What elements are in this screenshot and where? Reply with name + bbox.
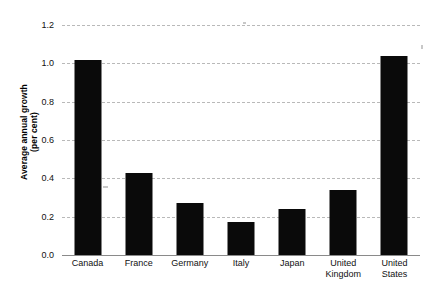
y-axis-tick-labels: 0.00.20.40.60.81.01.2 [0,0,62,300]
bar-japan[interactable] [279,209,306,255]
x-tick-label-line: United [366,258,422,269]
bar-chart-figure: Average annual growth (per cent) 0.00.20… [0,0,434,300]
x-tick-label-line: Canada [60,258,116,269]
x-tick-label-line: Italy [213,258,269,269]
x-axis-tick-labels: CanadaFranceGermanyItalyJapanUnitedKingd… [62,258,420,298]
bar-canada[interactable] [74,60,101,256]
x-tick-label-japan: Japan [264,258,320,269]
x-tick-label-line: Germany [162,258,218,269]
bar-italy[interactable] [227,222,254,255]
bar-slot-germany [164,25,215,255]
bars-layer [62,25,420,255]
x-tick-label-line: Kingdom [315,269,371,280]
scan-speckle [243,22,246,24]
bar-germany[interactable] [176,203,203,255]
x-tick-label-line: Japan [264,258,320,269]
axis-baseline [62,255,420,256]
x-tick-label-italy: Italy [213,258,269,269]
plot-area [62,25,420,255]
y-tick-label-0.8: 0.8 [41,97,54,107]
scan-speckle [421,45,423,49]
y-tick-label-0.6: 0.6 [41,135,54,145]
x-tick-label-france: France [111,258,167,269]
x-tick-label-line: France [111,258,167,269]
bar-slot-france [113,25,164,255]
y-tick-label-1.0: 1.0 [41,58,54,68]
bar-slot-united-states [369,25,420,255]
x-tick-label-line: States [366,269,422,280]
x-tick-label-line: United [315,258,371,269]
bar-united-states[interactable] [381,56,408,255]
bar-france[interactable] [125,173,152,255]
x-tick-label-united-states: UnitedStates [366,258,422,280]
y-tick-label-1.2: 1.2 [41,20,54,30]
scan-speckle [24,133,28,134]
x-tick-label-united-kingdom: UnitedKingdom [315,258,371,280]
y-tick-label-0.0: 0.0 [41,250,54,260]
scan-speckle [103,186,108,188]
bar-united-kingdom[interactable] [330,190,357,255]
bar-slot-italy [215,25,266,255]
bar-slot-japan [267,25,318,255]
x-tick-label-canada: Canada [60,258,116,269]
bar-slot-united-kingdom [318,25,369,255]
bar-slot-canada [62,25,113,255]
x-tick-label-germany: Germany [162,258,218,269]
y-tick-label-0.2: 0.2 [41,212,54,222]
y-tick-label-0.4: 0.4 [41,173,54,183]
